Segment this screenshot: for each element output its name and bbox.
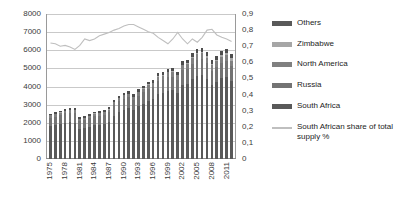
bar-segment (176, 93, 179, 159)
bar-segment (225, 77, 228, 159)
stacked-bar (186, 60, 189, 159)
stacked-bar (118, 96, 121, 159)
bar-segment (152, 87, 155, 99)
bar-segment (171, 77, 174, 90)
bar-segment (220, 63, 223, 79)
bar-segment (181, 85, 184, 159)
bar-segment (181, 70, 184, 84)
y-axis-right-tick: 0,1 (242, 139, 253, 147)
stacked-bar (196, 49, 199, 159)
bar-segment (54, 117, 57, 126)
bar-segment (230, 66, 233, 81)
stacked-bar (78, 117, 81, 159)
bar-segment (137, 96, 140, 107)
stacked-bar (142, 86, 145, 159)
y-axis-left-tick: 4000 (23, 83, 41, 91)
bar-segment (123, 99, 126, 110)
bar-segment (162, 93, 165, 159)
stacked-bar (191, 53, 194, 159)
bar-segment (64, 113, 67, 122)
bar-segment (215, 67, 218, 82)
bar-segment (186, 84, 189, 159)
y-axis-right-tick: 0,6 (242, 58, 253, 66)
y-axis-left-tick: 3000 (23, 101, 41, 109)
y-axis-right-tick: 0,7 (242, 42, 253, 50)
legend-item-label: Zimbabwe (297, 39, 334, 49)
stacked-bar (206, 52, 209, 159)
bar-segment (108, 112, 111, 121)
bar-segment (162, 80, 165, 93)
bar-segment (206, 79, 209, 159)
stacked-bar (83, 116, 86, 159)
legend-item[interactable]: South African share of total supply % (272, 122, 400, 142)
stacked-bar (167, 69, 170, 159)
y-axis-left-tick: 1000 (23, 137, 41, 145)
legend-color-swatch (272, 42, 292, 47)
bar-series-group (46, 14, 236, 159)
bar-segment (215, 82, 218, 159)
stacked-bar (162, 72, 165, 159)
chart-legend: OthersZimbabweNorth AmericaRussiaSouth A… (272, 18, 400, 153)
bar-column (229, 14, 234, 159)
stacked-bar (147, 82, 150, 159)
y-axis-right-tick: 0,5 (242, 74, 253, 82)
bar-segment (49, 126, 52, 159)
stacked-bar (176, 72, 179, 159)
legend-item[interactable]: Others (272, 18, 400, 28)
bar-segment (191, 79, 194, 159)
bar-segment (83, 120, 86, 128)
bar-segment (157, 81, 160, 94)
bar-segment (171, 90, 174, 159)
y-axis-right-tick: 0 (242, 155, 246, 163)
stacked-bar (98, 111, 101, 159)
bar-segment (127, 108, 130, 159)
bar-segment (201, 75, 204, 159)
bar-segment (132, 110, 135, 159)
stacked-bar (49, 114, 52, 159)
legend-color-swatch (272, 62, 292, 67)
chart-container: 010002000300040005000600070008000 00,10,… (0, 0, 401, 203)
stacked-bar (215, 56, 218, 159)
bar-segment (196, 76, 199, 159)
stacked-bar (225, 49, 228, 159)
bar-segment (108, 122, 111, 159)
stacked-bar (230, 54, 233, 159)
legend-item-label: Others (297, 18, 321, 28)
y-axis-left-tick: 7000 (23, 28, 41, 36)
bar-segment (118, 101, 121, 112)
bar-segment (103, 124, 106, 159)
bar-segment (74, 113, 77, 123)
plot-area (46, 14, 236, 159)
stacked-bar (93, 112, 96, 159)
stacked-bar (69, 108, 72, 159)
bar-segment (113, 105, 116, 115)
y-axis-right: 00,10,20,30,40,50,60,70,80,9 (240, 0, 270, 145)
legend-item-label: South Africa (297, 101, 340, 111)
stacked-bar (157, 73, 160, 159)
bar-segment (64, 123, 67, 159)
y-axis-left: 010002000300040005000600070008000 (0, 0, 44, 145)
bar-segment (54, 125, 57, 159)
legend-color-swatch (272, 104, 292, 109)
bar-segment (157, 94, 160, 159)
legend-item[interactable]: Zimbabwe (272, 39, 400, 49)
bar-segment (59, 115, 62, 124)
bar-segment (220, 78, 223, 159)
bar-segment (176, 80, 179, 93)
stacked-bar (123, 93, 126, 159)
bar-segment (132, 100, 135, 110)
legend-item[interactable]: South Africa (272, 101, 400, 111)
y-axis-left-tick: 6000 (23, 46, 41, 54)
legend-line-swatch (272, 127, 292, 129)
y-axis-right-tick: 0,8 (242, 26, 253, 34)
stacked-bar (137, 89, 140, 159)
bar-segment (142, 104, 145, 159)
legend-item[interactable]: North America (272, 59, 400, 69)
legend-item[interactable]: Russia (272, 80, 400, 90)
bar-segment (103, 115, 106, 124)
bar-segment (167, 91, 170, 160)
bar-segment (88, 118, 91, 127)
stacked-bar (108, 107, 111, 159)
stacked-bar (88, 114, 91, 159)
stacked-bar (64, 109, 67, 159)
